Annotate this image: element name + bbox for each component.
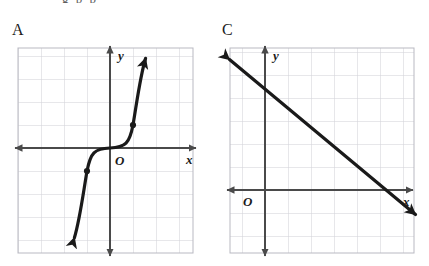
panel-a-point-neg1 <box>84 168 90 174</box>
panel-a-grid <box>18 48 193 253</box>
graph-figure: g p p A <box>0 0 429 266</box>
panel-c-y-axis-label: y <box>271 48 279 63</box>
panel-a-x-axis-label: x <box>185 152 193 167</box>
panel-c: C <box>215 0 429 266</box>
panel-c-x-axis-label: x <box>402 194 410 209</box>
panel-a-graph: y x O <box>0 0 215 266</box>
panel-a-y-axis-label: y <box>116 48 124 63</box>
panel-c-grid <box>230 48 414 253</box>
panel-a-origin-label: O <box>115 153 125 168</box>
panel-a-point-pos1 <box>130 122 136 128</box>
panel-a: A <box>0 0 215 266</box>
panel-c-graph: y x O <box>215 0 429 266</box>
panel-c-origin-label: O <box>243 194 253 209</box>
